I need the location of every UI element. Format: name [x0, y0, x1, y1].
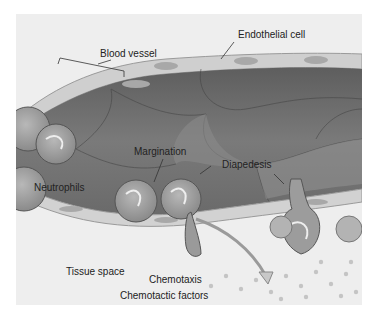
label-tissue-space: Tissue space [66, 266, 125, 277]
label-neutrophils: Neutrophils [34, 182, 85, 193]
vessel-illustration [16, 14, 362, 305]
label-chemotactic-factors: Chemotactic factors [120, 290, 208, 301]
label-endothelial-cell: Endothelial cell [238, 29, 305, 40]
label-chemotaxis: Chemotaxis [149, 274, 202, 285]
chemotactic-factor-dots [209, 260, 358, 301]
label-margination: Margination [134, 146, 186, 157]
label-blood-vessel: Blood vessel [100, 48, 157, 59]
chemotaxis-arrow [196, 219, 266, 276]
label-diapedesis: Diapedesis [222, 159, 271, 170]
illustration-panel: Blood vessel Endothelial cell Marginatio… [16, 14, 362, 305]
